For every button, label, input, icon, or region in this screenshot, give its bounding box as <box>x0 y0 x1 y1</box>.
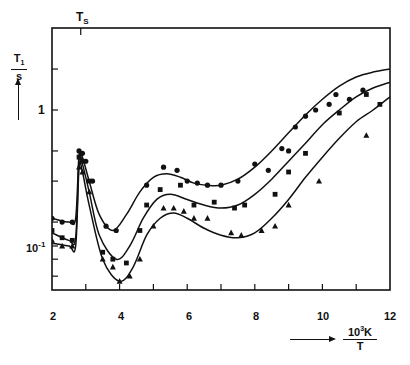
y-axis-arrow-icon <box>18 80 19 120</box>
data-point-circle-icon <box>195 181 200 186</box>
data-point-circle-icon <box>252 162 257 167</box>
data-point-triangle-icon <box>191 215 197 221</box>
data-point-circle-icon <box>327 102 332 107</box>
data-point-square-icon <box>192 203 197 208</box>
data-point-circle-icon <box>49 216 54 221</box>
y-tick-label-0.1: 10-1 <box>26 240 45 254</box>
data-point-circle-icon <box>218 183 223 188</box>
data-point-circle-icon <box>174 168 179 173</box>
data-point-square-icon <box>212 200 217 205</box>
data-point-triangle-icon <box>204 215 210 221</box>
data-point-square-icon <box>137 228 142 233</box>
data-point-circle-icon <box>103 224 108 229</box>
data-point-circle-icon <box>333 92 338 97</box>
data-point-square-icon <box>364 92 369 97</box>
data-point-triangle-icon <box>316 178 322 184</box>
series-group <box>49 69 390 284</box>
data-point-circle-icon <box>279 146 284 151</box>
data-point-square-icon <box>158 187 163 192</box>
data-point-triangle-icon <box>181 208 187 214</box>
y-axis-arrowhead-icon <box>15 78 21 85</box>
data-point-square-icon <box>110 257 115 262</box>
data-point-square-icon <box>286 170 291 175</box>
data-point-triangle-icon <box>110 264 116 270</box>
x-axis-arrowhead-icon <box>329 336 336 342</box>
plot-area <box>0 0 410 365</box>
data-point-square-icon <box>337 111 342 116</box>
data-point-circle-icon <box>205 183 210 188</box>
y-tick-label-1: 1 <box>38 103 45 117</box>
data-point-circle-icon <box>303 114 308 119</box>
data-point-circle-icon <box>161 165 166 170</box>
data-point-circle-icon <box>114 228 119 233</box>
data-point-square-icon <box>242 203 247 208</box>
data-point-circle-icon <box>185 179 190 184</box>
data-point-circle-icon <box>266 168 271 173</box>
x-axis-label: 103K T <box>343 322 377 353</box>
data-point-circle-icon <box>60 219 65 224</box>
data-point-triangle-icon <box>228 230 234 236</box>
data-point-square-icon <box>273 192 278 197</box>
data-point-circle-icon <box>313 107 318 112</box>
data-point-circle-icon <box>144 183 149 188</box>
ts-label: TS <box>76 10 89 26</box>
x-tick-label: 8 <box>253 310 259 322</box>
data-point-circle-icon <box>70 219 75 224</box>
x-tick-label: 10 <box>317 310 329 322</box>
x-tick-label: 2 <box>50 310 56 322</box>
data-point-square-icon <box>50 228 55 233</box>
x-axis-arrow-icon <box>290 339 330 340</box>
data-point-triangle-icon <box>161 205 167 211</box>
data-point-circle-icon <box>293 124 298 129</box>
data-point-square-icon <box>178 183 183 188</box>
data-point-square-icon <box>303 151 308 156</box>
data-point-triangle-icon <box>100 256 106 262</box>
x-tick-label: 12 <box>384 310 396 322</box>
data-point-square-icon <box>87 179 92 184</box>
data-point-square-icon <box>60 235 65 240</box>
data-point-square-icon <box>232 206 237 211</box>
data-point-square-icon <box>70 238 75 243</box>
data-point-square-icon <box>124 261 129 266</box>
data-point-triangle-icon <box>363 132 369 138</box>
data-point-triangle-icon <box>49 237 55 243</box>
data-point-triangle-icon <box>238 232 244 238</box>
x-tick-label: 4 <box>118 310 124 322</box>
data-point-circle-icon <box>286 148 291 153</box>
data-point-triangle-icon <box>272 223 278 229</box>
data-point-triangle-icon <box>171 205 177 211</box>
data-point-circle-icon <box>235 179 240 184</box>
fit-curve <box>52 82 390 259</box>
x-tick-label: 6 <box>186 310 192 322</box>
data-point-square-icon <box>144 203 149 208</box>
fit-curve <box>52 69 390 230</box>
